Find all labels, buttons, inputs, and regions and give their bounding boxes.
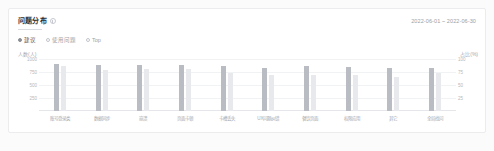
problem-distribution-chart: 人数(人) 占比(%) 1000750500250 100755025 账号登录… — [18, 51, 478, 127]
info-icon[interactable] — [50, 18, 56, 24]
radio-option-0[interactable]: 建议 — [18, 34, 36, 44]
x-tick-label: 页面卡顿 — [164, 115, 206, 123]
title-underline — [18, 29, 42, 30]
page-title: 问题分布 — [18, 15, 47, 27]
filter-radio-group: 建议 使用问题 Top — [18, 34, 111, 44]
y-tick-right: 75 — [458, 70, 478, 75]
x-tick-label: 账号登录类 — [39, 115, 81, 123]
y-tick-right: 100 — [458, 57, 478, 62]
page-background: 问题分布 2022-06-01 ~ 2022-06-30 建议 使用问题 Top… — [0, 0, 494, 151]
x-tick-label: UX问题纠错 — [248, 115, 290, 123]
x-tick-label: 崩溃 — [122, 115, 164, 123]
radio-option-2[interactable]: Top — [86, 34, 101, 44]
ratio-line-series — [39, 59, 456, 151]
x-tick-label: 卡槽丢失 — [206, 115, 248, 123]
y-tick-right: 50 — [458, 83, 478, 88]
y-tick-left: 750 — [18, 70, 37, 75]
plot-area — [39, 59, 456, 111]
radio-dot-icon — [18, 38, 22, 42]
x-axis-labels: 账号登录类数据同步崩溃页面卡顿卡槽丢失UX问题纠错餐饮页面权限应用其它全局找问 — [39, 115, 456, 123]
radio-label-1: 使用问题 — [52, 37, 76, 43]
radio-option-1[interactable]: 使用问题 — [46, 34, 76, 44]
radio-dot-icon — [46, 38, 50, 42]
x-tick-label: 其它 — [373, 115, 415, 123]
y-tick-left: 500 — [18, 83, 37, 88]
radio-label-2: Top — [92, 37, 101, 43]
y-tick-right: 25 — [458, 96, 478, 101]
x-tick-label: 权限应用 — [331, 115, 373, 123]
date-range-label[interactable]: 2022-06-01 ~ 2022-06-30 — [411, 15, 476, 27]
card-header: 问题分布 2022-06-01 ~ 2022-06-30 — [18, 15, 476, 27]
radio-label-0: 建议 — [24, 37, 36, 43]
x-tick-label: 餐饮页面 — [289, 115, 331, 123]
y-tick-left: 1000 — [18, 57, 37, 62]
radio-dot-icon — [86, 38, 90, 42]
problem-distribution-card: 问题分布 2022-06-01 ~ 2022-06-30 建议 使用问题 Top… — [8, 8, 486, 133]
y-tick-left: 250 — [18, 96, 37, 101]
x-tick-label: 数据同步 — [81, 115, 123, 123]
x-tick-label: 全局找问 — [414, 115, 456, 123]
